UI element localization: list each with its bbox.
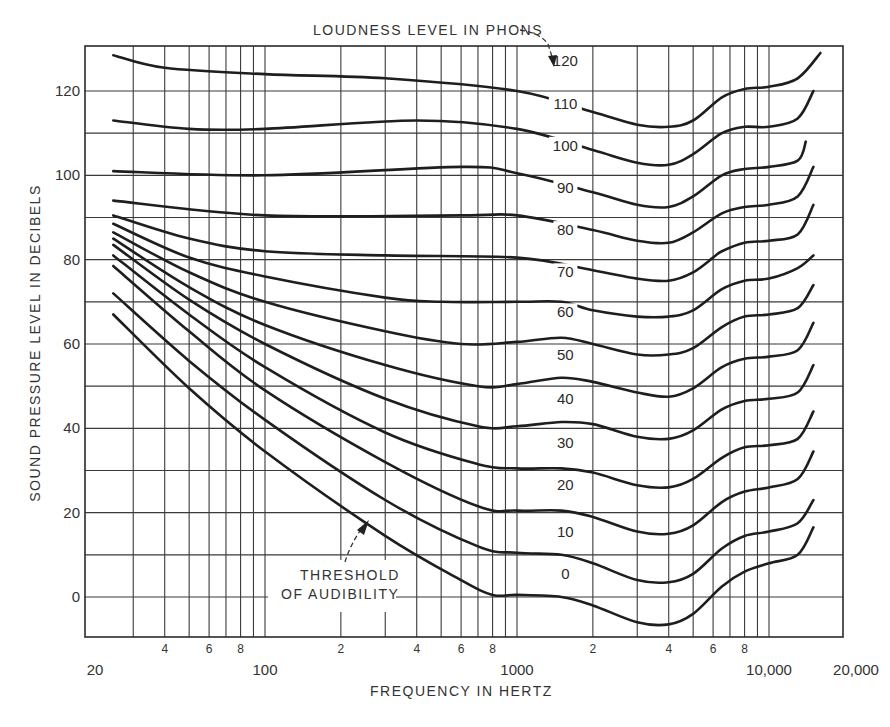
chart-grid [85,46,843,637]
x-major-tick-label: 1000 [500,661,533,678]
y-tick-label: 40 [63,419,80,436]
x-axis-title: FREQUENCY IN HERTZ [370,683,553,699]
x-minor-tick-label: 6 [458,642,465,656]
x-minor-tick-label: 8 [489,642,496,656]
loudness-curve-20-phons [113,266,813,534]
curve-label-0: 0 [561,565,569,582]
x-major-tick-label: 10,000 [746,661,792,678]
curve-label-80: 80 [557,221,574,238]
loudness-curves [113,53,820,625]
curve-label-90: 90 [557,179,574,196]
equal-loudness-chart: 1201101009080706050403020100 02040608010… [0,0,890,727]
curve-label-30: 30 [557,434,574,451]
y-axis-tick-labels: 020406080100120 [55,82,80,605]
x-major-tick-label: 20 [87,661,104,678]
chart-title: LOUDNESS LEVEL IN PHONS [313,22,543,38]
x-minor-tick-label: 8 [741,642,748,656]
x-axis-minor-tick-labels: 46824682468 [161,642,748,656]
y-axis-title: SOUND PRESSURE LEVEL IN DECIBELS [27,184,43,501]
x-minor-tick-label: 8 [237,642,244,656]
threshold-label-line2: OF AUDIBILITY [281,586,399,602]
loudness-curve-120-phons [113,53,820,127]
x-minor-tick-label: 2 [590,642,597,656]
curve-label-100: 100 [553,137,578,154]
plot-frame [85,46,843,637]
curve-label-20: 20 [557,476,574,493]
x-minor-tick-label: 4 [665,642,672,656]
threshold-label-line1: THRESHOLD [300,567,400,583]
curve-label-50: 50 [557,346,574,363]
y-tick-label: 100 [55,166,80,183]
y-tick-label: 20 [63,504,80,521]
x-major-tick-label: 100 [252,661,277,678]
x-minor-tick-label: 6 [710,642,717,656]
curve-label-110: 110 [553,95,577,112]
x-minor-tick-label: 6 [206,642,213,656]
curve-label-70: 70 [557,263,574,280]
loudness-curve-110-phons [113,91,813,165]
x-axis-major-tick-labels: 20100100010,00020,000 [87,661,879,678]
curve-label-60: 60 [557,303,574,320]
threshold-arrow-line [345,528,362,562]
loudness-curve-90-phons [113,167,813,243]
loudness-curve-0-phons [113,315,813,626]
curve-label-10: 10 [557,523,574,540]
y-tick-label: 0 [72,588,80,605]
curve-label-120: 120 [553,52,578,69]
curve-labels: 1201101009080706050403020100 [549,52,582,581]
x-major-tick-label: 20,000 [833,661,879,678]
loudness-curve-30-phons [113,255,813,487]
curve-label-40: 40 [557,390,574,407]
x-minor-tick-label: 2 [338,642,345,656]
y-tick-label: 80 [63,251,80,268]
x-minor-tick-label: 4 [161,642,168,656]
loudness-curve-40-phons [113,245,813,439]
loudness-curve-100-phons [113,142,806,208]
x-minor-tick-label: 4 [413,642,420,656]
y-tick-label: 60 [63,335,80,352]
y-tick-label: 120 [55,82,80,99]
